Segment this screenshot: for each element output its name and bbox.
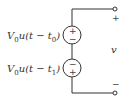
source-1-minus-sign: − <box>69 35 77 44</box>
source-1-label: V0u(t − t0) <box>7 31 60 44</box>
top-terminal <box>113 7 117 11</box>
source-2-label: V0u(t − t1) <box>7 64 60 77</box>
bottom-wire <box>72 77 113 93</box>
circuit-diagram <box>0 0 119 101</box>
source-2-plus-sign: + <box>69 68 77 77</box>
bottom-terminal <box>113 91 117 95</box>
output-voltage-label: v <box>111 45 117 55</box>
output-plus-sign: + <box>112 14 119 23</box>
top-wire <box>72 9 113 26</box>
output-minus-sign: − <box>112 80 119 89</box>
